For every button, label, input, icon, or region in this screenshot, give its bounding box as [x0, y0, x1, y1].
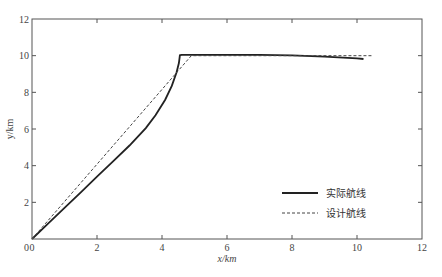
legend: 实际航线 设计航线 — [282, 187, 366, 219]
y-tick-label: 4 — [24, 160, 29, 171]
x-tick-label: 8 — [290, 242, 295, 253]
x-tick-label: 10 — [352, 242, 362, 253]
trajectory-chart: 024681012 024681012 x/km y/km 实际航线 设计航线 — [0, 0, 442, 277]
y-tick-label: 2 — [24, 197, 29, 208]
y-tick-label: 12 — [19, 14, 29, 25]
y-tick-label: 8 — [24, 87, 29, 98]
axes-frame — [32, 19, 422, 239]
x-axis-label: x/km — [217, 253, 237, 264]
legend-label-design: 设计航线 — [326, 207, 366, 219]
legend-label-actual: 实际航线 — [326, 187, 366, 199]
y-tick-label: 6 — [24, 124, 29, 135]
x-tick-label: 12 — [417, 242, 427, 253]
x-tick-label: 0 — [30, 242, 35, 253]
y-axis-label: y/km — [4, 119, 15, 140]
x-tick-label: 6 — [225, 242, 230, 253]
x-tick-label: 2 — [95, 242, 100, 253]
x-tick-label: 4 — [160, 242, 165, 253]
plot-area — [32, 55, 373, 239]
series-actual-route — [32, 55, 364, 239]
y-tick-label: 0 — [24, 242, 29, 253]
series-design-route — [32, 56, 373, 239]
y-tick-label: 10 — [19, 50, 29, 61]
